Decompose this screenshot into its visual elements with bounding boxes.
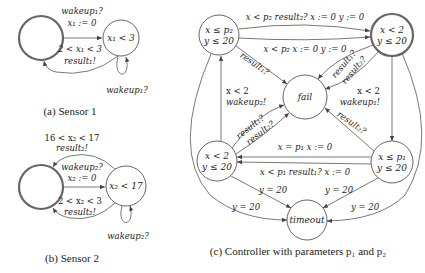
sensor1-caption: (a) Sensor 1 (43, 105, 96, 118)
controller-state-wait-sensor2 (199, 15, 239, 55)
sensor2-late-result-label: result₂! (56, 143, 88, 153)
edge-label: wakeup₁! (340, 97, 380, 107)
state-label: fail (297, 92, 313, 102)
sensor2-reset-label: x₂ := 0 (68, 173, 98, 183)
controller-state-wait-sensor1 (371, 141, 413, 183)
controller-automaton: x ≤ p₂ y ≤ 20 x < 2 y ≤ 20 x < 2 y ≤ 20 … (190, 12, 422, 258)
edge-label: x < 2 (226, 86, 249, 96)
sensor2-automaton: x₂ < 17 16 < x₂ < 17 result₂! wakeup₂? x… (19, 133, 149, 265)
edge-br-bl-result1 (237, 162, 371, 164)
sensor1-automaton: x₁ < 3 wakeup₁? x₁ := 0 2 < x₁ < 3 resul… (19, 6, 148, 118)
state-label: x < 2 (205, 151, 229, 161)
sensor1-idle-state (19, 16, 63, 60)
sensor2-idle-state (19, 165, 63, 209)
edge-label: y = 20 (258, 185, 288, 195)
edge-label: y = 20 (231, 202, 261, 212)
edge-label: result₁? (238, 50, 271, 77)
edge-label: result₂? (335, 109, 368, 136)
state-label: y ≤ 20 (376, 163, 407, 173)
edge-label: x < p₂ result₂? x := 0 y := 0 (246, 12, 365, 22)
sensor1-selfloop-edge (117, 56, 127, 74)
state-label: y ≤ 20 (203, 36, 234, 46)
edge-label: wakeup₂! (226, 97, 266, 107)
sensor2-result-label: result₂! (64, 207, 96, 217)
state-label: timeout (289, 215, 325, 225)
sensor1-wakeup-label: wakeup₁? (61, 6, 103, 16)
edge-label: x = p₁ x := 0 (278, 142, 333, 152)
sensor1-selfloop-label: wakeup₁? (106, 85, 148, 95)
sensor2-selfloop-edge (121, 206, 131, 223)
sensor2-late-guard-label: 16 < x₂ < 17 (45, 133, 100, 143)
controller-state-initial (371, 14, 413, 56)
sensor2-wakeup-label: wakeup₂? (61, 162, 103, 172)
sensor1-guard-label: 2 < x₁ < 3 (57, 44, 102, 54)
controller-caption: (c) Controller with parameters p₁ and p₂ (210, 245, 386, 258)
edge-label: x < p₂ x := 0 y := 0 (264, 44, 347, 54)
sensor2-caption: (b) Sensor 2 (45, 252, 99, 265)
timed-automata-figure: x₁ < 3 wakeup₁? x₁ := 0 2 < x₁ < 3 resul… (0, 0, 425, 273)
sensor2-active-invariant: x₂ < 17 (109, 181, 143, 191)
sensor1-reset-label: x₁ := 0 (68, 18, 98, 28)
state-label: y ≤ 20 (201, 162, 232, 172)
edge-tl-tr-timeout (239, 37, 370, 40)
sensor2-guard-label: 2 < x₂ < 3 (58, 196, 102, 206)
edge-tl-tr-result2 (239, 25, 370, 31)
edge-label: x < 2 (357, 86, 380, 96)
state-label: x ≤ p₂ (205, 25, 233, 35)
state-label: y ≤ 20 (376, 36, 407, 46)
sensor2-selfloop-label: wakeup₂? (107, 231, 149, 241)
sensor1-result-label: result₁! (64, 56, 96, 66)
state-label: x ≤ p₁ (378, 152, 406, 162)
edge-label: x < p₁ result₁? x := 0 (260, 167, 351, 177)
state-label: x < 2 (380, 25, 404, 35)
controller-state-wake-sensor2 (197, 141, 237, 181)
sensor1-active-invariant: x₁ < 3 (107, 33, 135, 43)
edge-label: y = 20 (350, 202, 380, 212)
edge-label: y = 20 (324, 185, 354, 195)
